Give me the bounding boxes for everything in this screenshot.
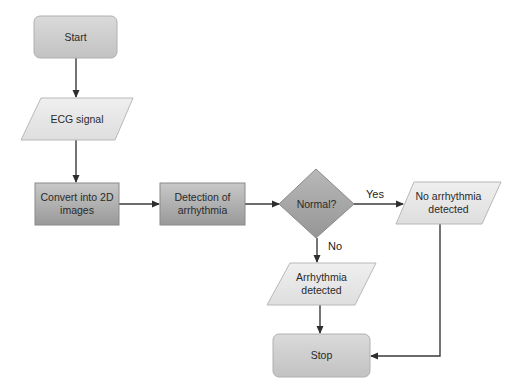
detection-label-line2: arrhythmia [178,204,228,216]
convert-label-line2: images [60,204,94,216]
arrhythmia-label-line1: Arrhythmia [296,271,347,283]
arrhythmia-node: Arrhythmia detected [267,263,376,305]
no-arrhythmia-label-line1: No arrhythmia [416,190,482,202]
detection-label-line1: Detection of [174,191,230,203]
start-node: Start [34,16,117,58]
no-arrhythmia-node: No arrhythmia detected [396,182,501,224]
convert-node: Convert into 2D images [35,183,119,225]
arrow-noarr-to-stop [371,224,440,356]
no-arrhythmia-label-line2: detected [428,203,468,215]
ecg-signal-node: ECG signal [21,98,133,140]
no-edge-label: No [328,240,342,252]
normal-decision-node: Normal? [279,169,354,238]
ecg-signal-label: ECG signal [50,113,103,125]
flowchart: Start ECG signal Convert into 2D images … [0,0,522,391]
yes-edge-label: Yes [366,188,384,200]
stop-label: Stop [311,349,333,361]
stop-node: Stop [273,334,370,377]
start-label: Start [64,31,86,43]
detection-node: Detection of arrhythmia [160,183,245,225]
convert-label-line1: Convert into 2D [41,191,114,203]
normal-label: Normal? [297,198,337,210]
arrhythmia-label-line2: detected [301,284,341,296]
